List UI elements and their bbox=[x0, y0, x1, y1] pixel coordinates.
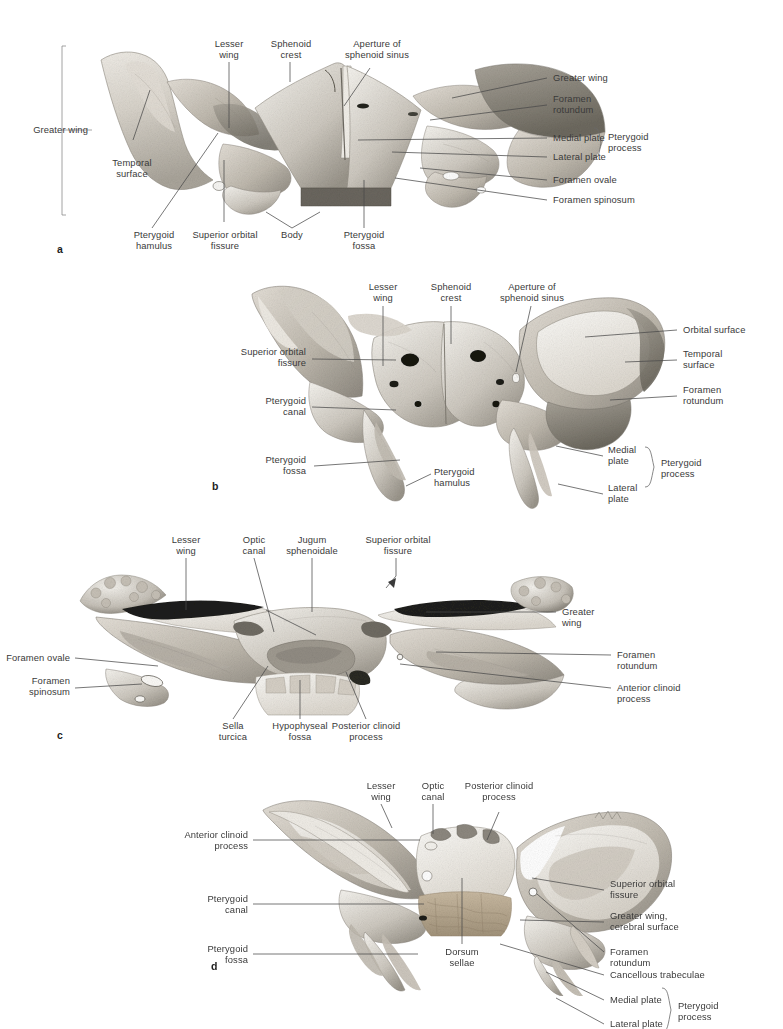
label-b-temporal-surface: Temporal surface bbox=[683, 348, 773, 371]
panel-a: Greater wing Temporal surface Lesser win… bbox=[0, 0, 783, 262]
label-a-aperture-of-sphenoid-sinus: Aperture of sphenoid sinus bbox=[323, 38, 431, 61]
label-c-foramen-spinosum: Foramen spinosum bbox=[0, 675, 70, 698]
label-b-superior-orbital-fissure: Superior orbital fissure bbox=[198, 346, 306, 369]
panel-b: Lesser wing Sphenoid crest Aperture of s… bbox=[0, 262, 783, 520]
label-c-anterior-clinoid-process: Anterior clinoid process bbox=[617, 682, 717, 705]
label-a-body: Body bbox=[266, 229, 318, 240]
label-a-foramen-rotundum: Foramen rotundum bbox=[553, 93, 649, 116]
label-c-jugum-sphenoidale: Jugum sphenoidale bbox=[264, 534, 360, 557]
label-a-foramen-ovale: Foramen ovale bbox=[553, 174, 673, 185]
label-d-anterior-clinoid-process: Anterior clinoid process bbox=[150, 829, 248, 852]
label-b-pterygoid-canal: Pterygoid canal bbox=[216, 395, 306, 418]
label-a-greater-wing-right: Greater wing bbox=[553, 72, 663, 83]
panel-c: Lesser wing Optic canal Jugum sphenoidal… bbox=[0, 520, 783, 768]
label-d-pterygoid-canal: Pterygoid canal bbox=[160, 893, 248, 916]
label-d-greater-wing-cerebral-surface: Greater wing, cerebral surface bbox=[610, 910, 728, 933]
label-b-pterygoid-process: Pterygoid process bbox=[661, 457, 755, 480]
sphenoid-bone-superior-view bbox=[78, 565, 578, 730]
panel-letter-b: b bbox=[212, 480, 218, 492]
label-a-superior-orbital-fissure: Superior orbital fissure bbox=[177, 229, 273, 252]
label-b-pterygoid-fossa: Pterygoid fossa bbox=[218, 454, 306, 477]
label-c-greater-wing: Greater wing bbox=[562, 606, 644, 629]
label-b-foramen-rotundum: Foramen rotundum bbox=[683, 384, 775, 407]
label-c-superior-orbital-fissure: Superior orbital fissure bbox=[348, 534, 448, 557]
label-a-foramen-spinosum: Foramen spinosum bbox=[553, 194, 683, 205]
label-d-dorsum-sellae: Dorsum sellae bbox=[424, 946, 500, 969]
panel-d: Lesser wing Optic canal Posterior clinoi… bbox=[0, 768, 783, 1020]
label-d-cancellous-trabeculae: Cancellous trabeculae bbox=[610, 969, 750, 980]
label-d-posterior-clinoid-process: Posterior clinoid process bbox=[449, 780, 549, 803]
label-b-aperture-of-sphenoid-sinus: Aperture of sphenoid sinus bbox=[478, 281, 586, 304]
panel-letter-d: d bbox=[211, 960, 217, 972]
label-b-orbital-surface: Orbital surface bbox=[683, 324, 783, 335]
label-b-lateral-plate: Lateral plate bbox=[608, 482, 674, 505]
panel-letter-c: c bbox=[57, 729, 63, 741]
label-d-foramen-rotundum: Foramen rotundum bbox=[610, 946, 702, 969]
panel-letter-a: a bbox=[57, 243, 63, 255]
label-a-greater-wing-left: Greater wing bbox=[0, 124, 88, 135]
label-a-temporal-surface: Temporal surface bbox=[85, 157, 179, 180]
label-a-sphenoid-crest: Sphenoid crest bbox=[251, 38, 331, 61]
label-d-pterygoid-process: Pterygoid process bbox=[678, 1000, 774, 1023]
label-c-foramen-ovale: Foramen ovale bbox=[0, 652, 70, 663]
label-d-pterygoid-fossa: Pterygoid fossa bbox=[160, 943, 248, 966]
label-b-pterygoid-hamulus: Pterygoid hamulus bbox=[434, 466, 526, 489]
label-c-foramen-rotundum: Foramen rotundum bbox=[617, 649, 709, 672]
label-a-pterygoid-process: Pterygoid process bbox=[608, 131, 704, 154]
label-c-posterior-clinoid-process: Posterior clinoid process bbox=[316, 720, 416, 743]
label-a-pterygoid-fossa: Pterygoid fossa bbox=[322, 229, 406, 252]
label-d-superior-orbital-fissure: Superior orbital fissure bbox=[610, 878, 714, 901]
